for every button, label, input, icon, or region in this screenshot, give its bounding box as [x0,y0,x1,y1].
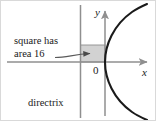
directrix-label: directrix [28,98,64,109]
square-area-annotation: square has area 16 [14,34,76,60]
parabola-curve-lower [105,62,147,120]
annotation-line-1: square has [14,34,76,47]
parabola-curve-upper [105,4,147,62]
origin-label: 0 [93,65,99,76]
x-axis-label: x [142,67,147,78]
figure-graphics [1,1,156,121]
parabola-figure: square has area 16 y x 0 directrix [0,0,156,121]
y-axis-label: y [95,7,100,18]
annotation-line-2: area 16 [14,47,76,60]
